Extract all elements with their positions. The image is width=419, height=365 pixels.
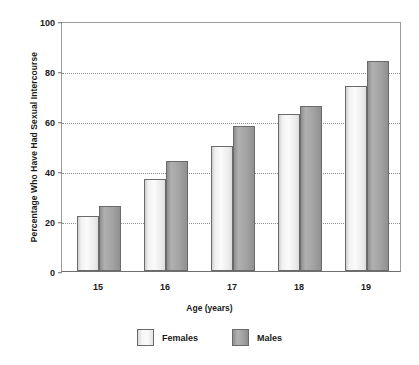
x-tick-label-17: 17: [227, 282, 237, 292]
y-tick-mark-0: [58, 272, 62, 273]
x-tick-label-18: 18: [294, 282, 304, 292]
y-axis-title: Percentage Who Have Had Sexual Intercour…: [29, 17, 39, 277]
bar-males-age-16: [166, 161, 188, 271]
bar-males-age-17: [233, 126, 255, 271]
bar-females-age-16: [144, 179, 166, 272]
y-tick-label-40: 40: [45, 168, 55, 178]
plot-area: 020406080100: [61, 22, 401, 272]
y-tick-label-60: 60: [45, 118, 55, 128]
legend-swatch-females: [137, 329, 154, 346]
y-tick-label-80: 80: [45, 68, 55, 78]
x-tick-label-19: 19: [361, 282, 371, 292]
bar-males-age-19: [367, 61, 389, 271]
legend-swatch-males: [232, 329, 249, 346]
bar-chart-figure: Percentage Who Have Had Sexual Intercour…: [0, 0, 419, 365]
legend-item-females: Females: [137, 329, 198, 346]
bar-males-age-15: [99, 206, 121, 271]
legend-label-males: Males: [257, 333, 282, 343]
legend-item-males: Males: [232, 329, 282, 346]
y-tick-label-100: 100: [40, 18, 55, 28]
y-tick-label-20: 20: [45, 218, 55, 228]
bar-females-age-18: [278, 114, 300, 272]
bar-females-age-15: [77, 216, 99, 271]
bar-males-age-18: [300, 106, 322, 271]
bar-females-age-19: [345, 86, 367, 271]
chart-legend: FemalesMales: [0, 329, 419, 346]
x-tick-label-15: 15: [93, 282, 103, 292]
y-tick-label-0: 0: [50, 268, 55, 278]
x-axis-title: Age (years): [0, 303, 419, 313]
bars-layer: [62, 23, 400, 271]
legend-label-females: Females: [162, 333, 198, 343]
bar-females-age-17: [211, 146, 233, 271]
x-tick-label-16: 16: [160, 282, 170, 292]
